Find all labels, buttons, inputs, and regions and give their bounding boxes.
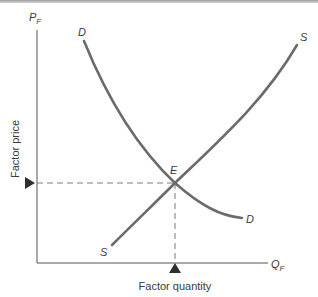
demand-label-bottom: D <box>246 213 254 225</box>
x-axis-symbol: QF <box>271 258 286 273</box>
quantity-marker-triangle-icon <box>169 263 181 273</box>
y-axis-symbol: PF <box>29 11 42 26</box>
equilibrium-label: E <box>170 164 178 176</box>
x-axis-title: Factor quantity <box>139 280 212 292</box>
demand-curve <box>84 41 242 218</box>
demand-label-top: D <box>78 26 86 38</box>
supply-label-bottom: S <box>100 246 108 258</box>
supply-label-top: S <box>300 31 308 43</box>
price-marker-triangle-icon <box>25 177 35 189</box>
y-axis-title: Factor price <box>9 120 21 178</box>
factor-market-diagram: PF QF Factor price Factor quantity D D S… <box>0 0 318 297</box>
